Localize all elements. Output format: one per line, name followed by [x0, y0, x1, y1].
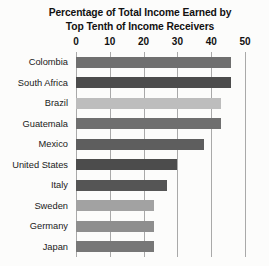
- x-tick-label: 0: [61, 36, 91, 47]
- category-label: Brazil: [0, 98, 68, 109]
- category-label: United States: [0, 160, 68, 171]
- bar: [76, 180, 167, 191]
- category-label: Germany: [0, 221, 68, 232]
- bar: [76, 200, 154, 211]
- category-label: Colombia: [0, 57, 68, 68]
- chart-title: Percentage of Total Income Earned by Top…: [18, 6, 262, 33]
- category-label: Mexico: [0, 139, 68, 150]
- plot-area: [76, 52, 245, 257]
- bar-chart-figure: Percentage of Total Income Earned by Top…: [0, 0, 269, 266]
- y-axis-category-labels: ColombiaSouth AfricaBrazilGuatemalaMexic…: [0, 52, 72, 257]
- bar: [76, 98, 221, 109]
- category-label: Italy: [0, 180, 68, 191]
- bar: [76, 159, 177, 170]
- bar: [76, 77, 231, 88]
- bar: [76, 139, 204, 150]
- category-label: Sweden: [0, 201, 68, 212]
- x-axis-tick-labels: 01020304050: [0, 36, 269, 50]
- x-tick-label: 50: [230, 36, 260, 47]
- bar: [76, 241, 154, 252]
- chart-title-line-2: Top Tenth of Income Receivers: [18, 20, 262, 34]
- x-tick-label: 30: [162, 36, 192, 47]
- gridline: [245, 52, 246, 257]
- bar: [76, 221, 154, 232]
- category-label: Guatemala: [0, 119, 68, 130]
- bar: [76, 57, 231, 68]
- x-tick-label: 20: [129, 36, 159, 47]
- chart-title-line-1: Percentage of Total Income Earned by: [18, 6, 262, 20]
- x-tick-label: 10: [95, 36, 125, 47]
- x-tick-label: 40: [196, 36, 226, 47]
- bars-group: [76, 52, 245, 257]
- category-label: South Africa: [0, 78, 68, 89]
- bar: [76, 118, 221, 129]
- category-label: Japan: [0, 242, 68, 253]
